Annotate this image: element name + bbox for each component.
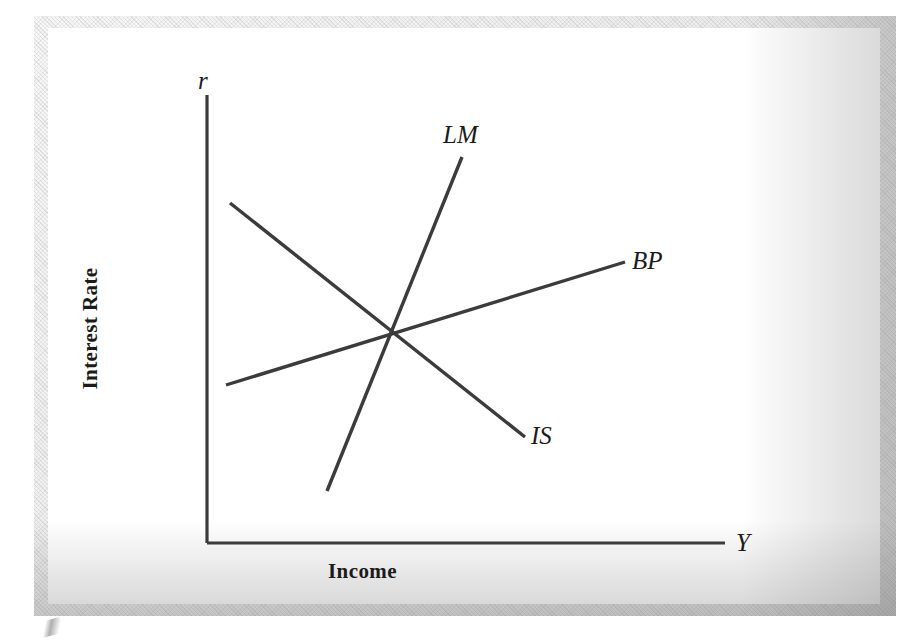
y-axis-title: Interest Rate bbox=[80, 179, 101, 479]
lm-curve-label: LM bbox=[443, 122, 478, 147]
is-curve bbox=[230, 203, 525, 437]
y-axis-symbol-label: r bbox=[198, 68, 208, 93]
x-axis-title: Income bbox=[0, 561, 725, 582]
bp-curve-label: BP bbox=[632, 248, 663, 273]
figure-page: r Y LM BP IS Income Interest Rate bbox=[0, 0, 921, 644]
x-axis-symbol-label: Y bbox=[736, 530, 750, 555]
is-lm-bp-plot bbox=[0, 0, 921, 644]
is-curve-label: IS bbox=[531, 423, 552, 448]
lm-curve bbox=[327, 157, 462, 491]
bp-curve bbox=[226, 262, 625, 385]
